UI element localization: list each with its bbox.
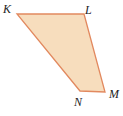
quadrilateral-svg [0,0,123,116]
geometry-figure: K L M N [0,0,123,116]
vertex-label-l: L [85,4,92,16]
vertex-label-n: N [74,96,82,108]
vertex-label-k: K [3,3,11,15]
vertex-label-m: M [109,88,119,100]
quadrilateral-klmn-shape [17,14,105,92]
